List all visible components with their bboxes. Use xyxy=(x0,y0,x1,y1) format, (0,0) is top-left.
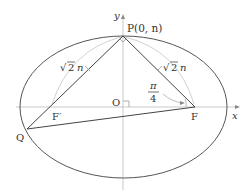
origin-label: O xyxy=(112,97,120,108)
ellipse-diagram: y x O P(0, n) F F′ Q √ 2 n √ 2 n π 4 xyxy=(0,0,250,195)
svg-text:n: n xyxy=(77,62,83,73)
right-angle-mark-origin xyxy=(123,101,129,107)
x-axis-label: x xyxy=(232,110,238,121)
tick-mark-pf xyxy=(157,66,162,71)
angle-arrow-icon xyxy=(180,101,185,105)
length-label-pf: √ 2 n xyxy=(163,62,186,73)
svg-text:√: √ xyxy=(60,62,67,73)
svg-text:2: 2 xyxy=(171,62,177,73)
svg-text:2: 2 xyxy=(68,62,74,73)
length-label-pf-prime: √ 2 n xyxy=(60,62,83,73)
svg-text:√: √ xyxy=(163,62,170,73)
point-f-label: F xyxy=(191,111,198,122)
point-f-prime-label: F′ xyxy=(52,111,62,122)
x-axis-arrow-icon xyxy=(235,105,240,109)
point-p-label: P(0, n) xyxy=(127,22,162,34)
angle-mark-f xyxy=(185,99,186,107)
y-axis-arrow-icon xyxy=(121,14,125,19)
svg-text:4: 4 xyxy=(150,93,156,104)
point-q-label: Q xyxy=(16,132,24,143)
segment-p-q xyxy=(27,36,123,129)
svg-text:π: π xyxy=(149,80,157,91)
angle-label-pi-over-4: π 4 xyxy=(148,80,159,104)
y-axis-label: y xyxy=(113,10,120,21)
svg-text:n: n xyxy=(180,62,186,73)
